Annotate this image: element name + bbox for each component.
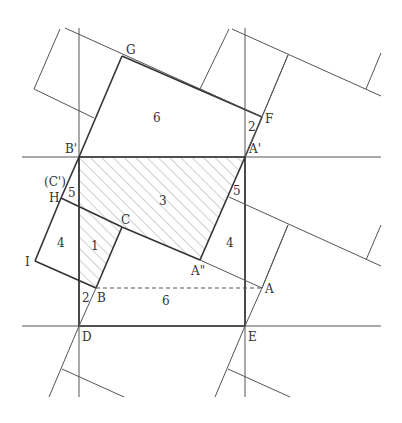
label-bprime: B' [65,142,77,156]
bottom-right-slant [215,326,245,397]
length-dashed-6: 6 [162,294,170,308]
length-left-square-4: 4 [57,236,65,250]
label-e: E [248,330,257,344]
mid-right-line [229,197,381,266]
edge-g-bprime [79,56,122,157]
length-f-segment: 2 [248,120,256,134]
length-right-5: 5 [233,184,241,198]
label-b: B [97,291,106,305]
bottom-left-tick [62,369,124,397]
bottom-left-slant [49,326,79,397]
label-cprime: (C') [44,175,66,189]
bottom-right-tick [228,369,290,397]
label-aprime: A' [248,142,261,156]
edge-a-upper [262,225,288,288]
top-right-slant [200,29,229,89]
geometry-diagram: G F B' A' (C') H I C A" A B D E 6 2 5 5 … [0,0,402,423]
length-b-segment-2: 2 [82,291,90,305]
length-small-triangle-1: 1 [91,239,99,253]
label-c: C [121,213,130,227]
length-hatched-3: 3 [159,194,167,208]
top-left-square [34,29,94,118]
top-right-line [232,29,381,96]
label-f: F [265,112,273,126]
upper-left-connector [200,89,262,117]
top-right-tick [366,53,381,89]
edge-adoubleprime-a [200,260,262,288]
label-h: H [49,191,59,205]
edge-a-e [245,288,262,326]
length-top-rect: 6 [153,111,161,125]
length-left-5: 5 [68,186,76,200]
label-g: G [126,43,136,57]
label-a: A [264,282,274,296]
length-right-4: 4 [226,236,234,250]
label-i: I [25,255,30,269]
label-adoubleprime: A" [190,264,205,278]
label-d: D [82,330,92,344]
mid-right-tick [366,225,381,260]
edge-h-i [35,198,61,261]
